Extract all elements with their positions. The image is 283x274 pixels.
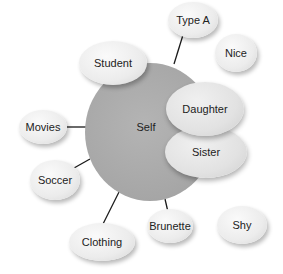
- node-soccer: Soccer: [30, 160, 80, 200]
- node-label: Type A: [176, 14, 210, 26]
- node-label: Shy: [233, 219, 252, 231]
- node-brunette: Brunette: [147, 209, 193, 243]
- node-clothing: Clothing: [69, 223, 135, 261]
- node-label: Clothing: [82, 236, 122, 248]
- node-label: Brunette: [149, 220, 191, 232]
- node-label: Soccer: [38, 174, 72, 186]
- node-label: Daughter: [182, 103, 227, 115]
- connector-soccer: [74, 159, 90, 168]
- connector-type-a: [174, 35, 183, 64]
- node-label: Sister: [192, 146, 220, 158]
- node-shy: Shy: [217, 206, 267, 244]
- node-student: Student: [79, 41, 147, 85]
- node-type-a: Type A: [168, 2, 218, 38]
- self-label: Self: [137, 121, 156, 133]
- node-movies: Movies: [19, 110, 67, 144]
- node-label: Movies: [26, 121, 61, 133]
- node-label: Student: [94, 57, 132, 69]
- node-nice: Nice: [215, 34, 257, 72]
- node-label: Nice: [225, 47, 247, 59]
- connector-clothing: [103, 192, 119, 224]
- self-concept-diagram: Self Type A Nice Student Sister Daughter…: [0, 0, 283, 274]
- node-daughter: Daughter: [166, 82, 244, 136]
